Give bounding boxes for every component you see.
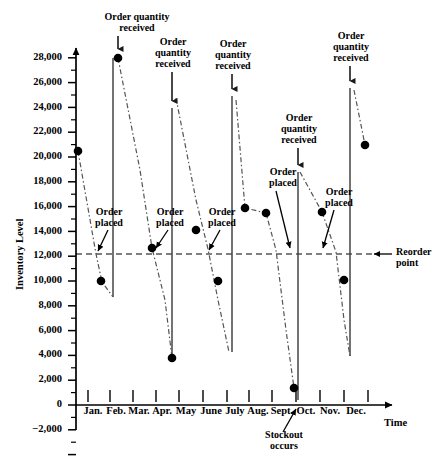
y-axis-title: Inventory Level xyxy=(14,219,25,290)
inventory-level-chart: 28,000 26,000 24,000 22,000 20,000 18,00… xyxy=(0,0,440,469)
ytick-16000: 16,000 xyxy=(14,200,62,211)
order-placed-label-3: Order placed xyxy=(196,206,248,228)
ytick-20000: 20,000 xyxy=(14,150,62,161)
x-axis-title: Time xyxy=(384,417,407,428)
order-received-label-4: Order quantity received xyxy=(262,112,336,145)
ytick-28000: 28,000 xyxy=(14,51,62,62)
order-placed-label-4: Order placed xyxy=(257,166,309,188)
order-received-label-5: Order quantity received xyxy=(314,30,388,63)
ytick-neg2000: −2,000 xyxy=(10,423,62,434)
xtick-dec: Dec. xyxy=(341,405,371,416)
order-received-label-3: Order quantity received xyxy=(196,38,270,71)
ytick-6000: 6,000 xyxy=(14,324,62,335)
order-placed-label-2: Order placed xyxy=(144,206,196,228)
ytick-2000: 2,000 xyxy=(14,373,62,384)
ytick-0: 0 xyxy=(14,398,62,409)
order-received-label-1: Order quantity received xyxy=(82,11,192,33)
order-placed-label-1: Order placed xyxy=(83,206,135,228)
order-placed-label-5: Order placed xyxy=(313,186,365,208)
ytick-22000: 22,000 xyxy=(14,125,62,136)
x-axis-ticks xyxy=(88,390,368,402)
ytick-24000: 24,000 xyxy=(14,101,62,112)
ytick-26000: 26,000 xyxy=(14,76,62,87)
y-axis-major-ticks xyxy=(68,58,76,455)
ytick-4000: 4,000 xyxy=(14,348,62,359)
stockout-label: Stockout occurs xyxy=(249,429,319,451)
ytick-8000: 8,000 xyxy=(14,299,62,310)
reorder-point-label: Reorder point xyxy=(396,246,440,268)
ytick-18000: 18,000 xyxy=(14,175,62,186)
